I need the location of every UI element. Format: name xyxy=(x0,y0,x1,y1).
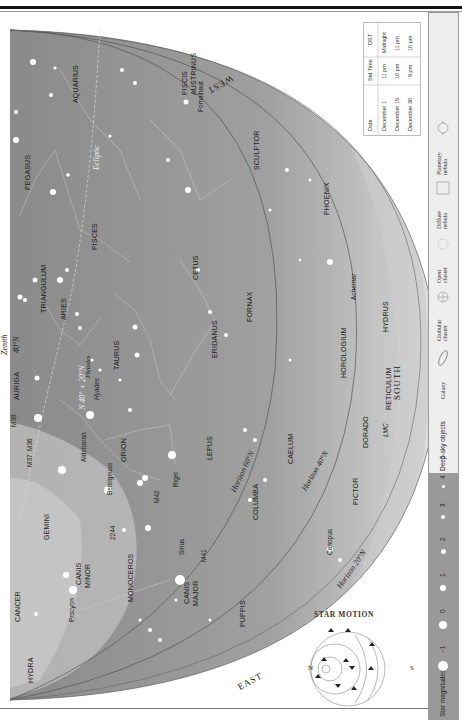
galaxy-icon xyxy=(436,349,450,367)
label-aldebaran: Aldebaran xyxy=(80,432,87,462)
label-reticulum: RETICULUM xyxy=(385,367,392,410)
label-puppis: PUPPIS xyxy=(239,600,246,627)
mag-label: 1 xyxy=(439,573,446,577)
label-zenith-combo: N 40° + 20°N xyxy=(78,366,87,410)
label-horologium: HOROLOGIUM xyxy=(340,327,347,378)
label-hyades: Hyades xyxy=(93,378,100,400)
legend-globular-label: Globular cluster xyxy=(436,315,448,341)
table-cell: Midnight xyxy=(381,32,387,53)
table-header-dst: DST xyxy=(367,34,373,45)
label-ngc-2244: 2244 xyxy=(109,526,116,540)
table-cell: 11 pm xyxy=(394,36,400,51)
star-motion-arrows xyxy=(315,628,375,690)
label-piscis: PISCIS xyxy=(181,71,188,95)
star-motion-north: N xyxy=(308,664,313,672)
label-canopus: Canopus xyxy=(326,529,333,555)
label-fomalhaut: Fomalhaut xyxy=(197,81,204,112)
header-rule xyxy=(0,6,462,9)
label-triangulum: TRIANGULUM xyxy=(40,265,47,313)
star-motion-diagram xyxy=(310,632,385,706)
label-canis-major-1: CANIS xyxy=(183,582,190,604)
table-cell: 9 pm xyxy=(407,65,413,77)
legend-planetary-nebula-label: Planetary nebula xyxy=(436,149,448,175)
time-table: Date Std Time DST December 1 11 pm Midni… xyxy=(363,22,421,136)
mag-label: 3 xyxy=(439,503,446,507)
star-motion-title: STAR MOTION xyxy=(314,610,374,619)
label-betelgeuse: Betelgeuse xyxy=(106,462,113,495)
label-m38: M38 xyxy=(10,414,17,427)
label-cancer: CANCER xyxy=(14,591,21,622)
mag-label: 4 xyxy=(439,475,446,479)
table-cell: December 1 xyxy=(381,101,387,131)
label-pictor: PICTOR xyxy=(352,477,359,505)
label-m37: M37 xyxy=(26,454,33,467)
footer-rule xyxy=(0,708,430,709)
label-phoenix: PHOENIX xyxy=(323,182,330,215)
label-pisces: PISCES xyxy=(91,223,98,250)
label-zenith: Zenith xyxy=(0,335,9,355)
mag-label: 2 xyxy=(439,537,446,541)
label-monoceros: MONOCEROS xyxy=(127,554,134,602)
label-cetus: CETUS xyxy=(192,255,199,280)
label-procyon: Procyon xyxy=(68,598,75,622)
label-auriga: AURIGA xyxy=(13,372,20,400)
deep-sky-label: Deep-sky objects xyxy=(439,421,446,471)
legend-open-cluster-label: Open cluster xyxy=(436,261,448,283)
label-orion: ORION xyxy=(120,438,127,462)
magnitudes-label: Star magnitudes xyxy=(439,670,446,717)
label-gemini: GEMINI xyxy=(43,514,50,540)
table-cell: 11 pm xyxy=(381,64,387,79)
label-hydra: HYDRA xyxy=(27,657,34,683)
label-aries: ARIES xyxy=(60,298,67,320)
label-eridanus: ERIDANUS xyxy=(211,320,218,358)
mag-dot-1 xyxy=(440,585,446,591)
direction-south: SOUTH xyxy=(392,365,402,400)
table-cell: December 15 xyxy=(394,98,400,131)
label-canis-minor-1: CANIS xyxy=(75,563,82,585)
mag-label: −1 xyxy=(439,646,446,653)
label-lmc: LMC xyxy=(382,423,389,437)
label-fornax: FORNAX xyxy=(246,292,253,322)
label-canis-major-2: MAJOR xyxy=(192,581,199,607)
mag-label: 0 xyxy=(439,609,446,613)
legend-galaxy-label: Galaxy xyxy=(440,382,446,399)
label-canis-minor-2: MINOR xyxy=(84,564,91,588)
open-cluster-icon xyxy=(437,238,449,250)
label-austrinus: AUSTRINUS xyxy=(190,53,197,95)
diffuse-nebula-icon xyxy=(436,181,450,195)
label-aquarius: AQUARIUS xyxy=(72,65,79,103)
table-header-date: Date xyxy=(367,119,373,131)
planetary-nebula-icon xyxy=(436,121,450,135)
label-m42: M42 xyxy=(153,490,160,503)
table-cell: December 30 xyxy=(407,98,413,131)
table-cell: 10 pm xyxy=(394,64,400,79)
label-pegasus: PEGASUS xyxy=(24,155,31,190)
star-motion-south: S xyxy=(410,664,414,672)
label-dorado: DORADO xyxy=(362,416,369,448)
mag-dot-0 xyxy=(439,621,447,629)
label-caelum: CAELUM xyxy=(287,434,294,464)
legend-diffuse-nebula-label: Diffuse nebula xyxy=(436,207,448,229)
label-rigel: Rigel xyxy=(172,472,179,487)
table-header-std: Std Time xyxy=(367,59,373,81)
label-m36: M36 xyxy=(26,438,33,451)
label-ecliptic: Ecliptic xyxy=(92,145,101,170)
mag-dot-3 xyxy=(441,515,445,519)
label-sirius: Sirius xyxy=(178,539,185,555)
label-m41: M41 xyxy=(200,549,207,562)
label-taurus: TAURUS xyxy=(113,341,120,370)
legend-bar: Star magnitudes −1 0 1 2 3 4 5 Deep-sky … xyxy=(428,12,459,720)
globular-cluster-icon xyxy=(437,291,449,303)
mag-dot-4 xyxy=(442,485,445,488)
magnitude-scale: Star magnitudes −1 0 1 2 3 4 5 xyxy=(429,473,458,719)
label-hydrus: HYDRUS xyxy=(382,301,389,332)
table-cell: 10 pm xyxy=(407,36,413,51)
mag-dot-2 xyxy=(441,549,446,554)
label-sculptor: SCULPTOR xyxy=(253,130,260,170)
mag-dot-minus1 xyxy=(438,661,448,671)
label-columba: COLUMBA xyxy=(252,484,259,520)
label-lepus: LEPUS xyxy=(206,436,213,460)
label-achernar: Achernar xyxy=(350,274,357,300)
label-zenith-40n: 40°N xyxy=(12,336,21,353)
